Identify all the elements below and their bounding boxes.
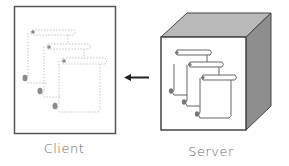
client-label: Client [36, 141, 92, 156]
arrow-left-icon [124, 74, 149, 81]
client-window [15, 7, 116, 134]
server-doc-3-icon [199, 75, 237, 118]
server-label: Server [183, 144, 239, 159]
